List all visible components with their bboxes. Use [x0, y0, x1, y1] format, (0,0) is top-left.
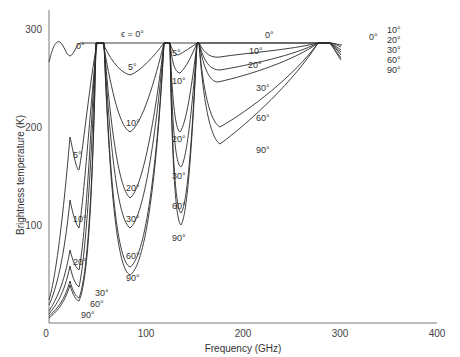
label-22-30: 30° [95, 288, 109, 298]
y-tick-100: 100 [25, 220, 42, 231]
label-60-20: 20° [126, 183, 140, 193]
label-325-10: 10° [387, 25, 401, 35]
label-60-10: 10° [126, 118, 140, 128]
curves [49, 42, 342, 318]
x-axis-title: Frequency (GHz) [205, 343, 282, 354]
y-tick-200: 200 [25, 122, 42, 133]
label-183-60: 60° [256, 113, 270, 123]
x-tick-100: 100 [138, 328, 155, 339]
label-183-90: 90° [256, 145, 270, 155]
label-325-90: 90° [387, 65, 401, 75]
label-22-90: 90° [81, 310, 95, 320]
label-325-30: 30° [387, 45, 401, 55]
label-60-60: 60° [126, 251, 140, 261]
label-118-60: 60° [172, 201, 186, 211]
label-183-30: 30° [256, 83, 270, 93]
label-118-10: 10° [172, 76, 186, 86]
brightness-temperature-chart: 300 200 100 0 100 200 300 400 Frequency … [0, 0, 460, 357]
label-22-0: 0° [76, 41, 85, 51]
label-60-30: 30° [126, 214, 140, 224]
x-tick-200: 200 [235, 328, 252, 339]
epsilon-annotation: ϵ = 0° [121, 29, 144, 39]
y-axis-title: Brightness temperature (K) [15, 115, 26, 235]
y-tick-300: 300 [25, 24, 42, 35]
label-118-30: 30° [172, 171, 186, 181]
label-183-10: 10° [249, 46, 263, 56]
label-118-20: 20° [172, 134, 186, 144]
label-22-10: 10° [73, 214, 87, 224]
label-22-20: 20° [73, 257, 87, 267]
label-325-0: 0° [369, 32, 378, 42]
x-tick-300: 300 [332, 328, 349, 339]
x-tick-400: 400 [429, 328, 446, 339]
label-183-0: 0° [265, 30, 274, 40]
x-tick-0: 0 [43, 328, 49, 339]
label-118-90: 90° [172, 233, 186, 243]
label-60-90: 90° [126, 273, 140, 283]
label-183-20: 20° [248, 60, 262, 70]
label-22-60: 60° [90, 299, 104, 309]
label-118-5: 5° [172, 48, 181, 58]
label-22-5: 5° [73, 150, 82, 160]
label-60-5: 5° [128, 62, 137, 72]
label-325-20: 20° [387, 35, 401, 45]
label-325-60: 60° [387, 55, 401, 65]
